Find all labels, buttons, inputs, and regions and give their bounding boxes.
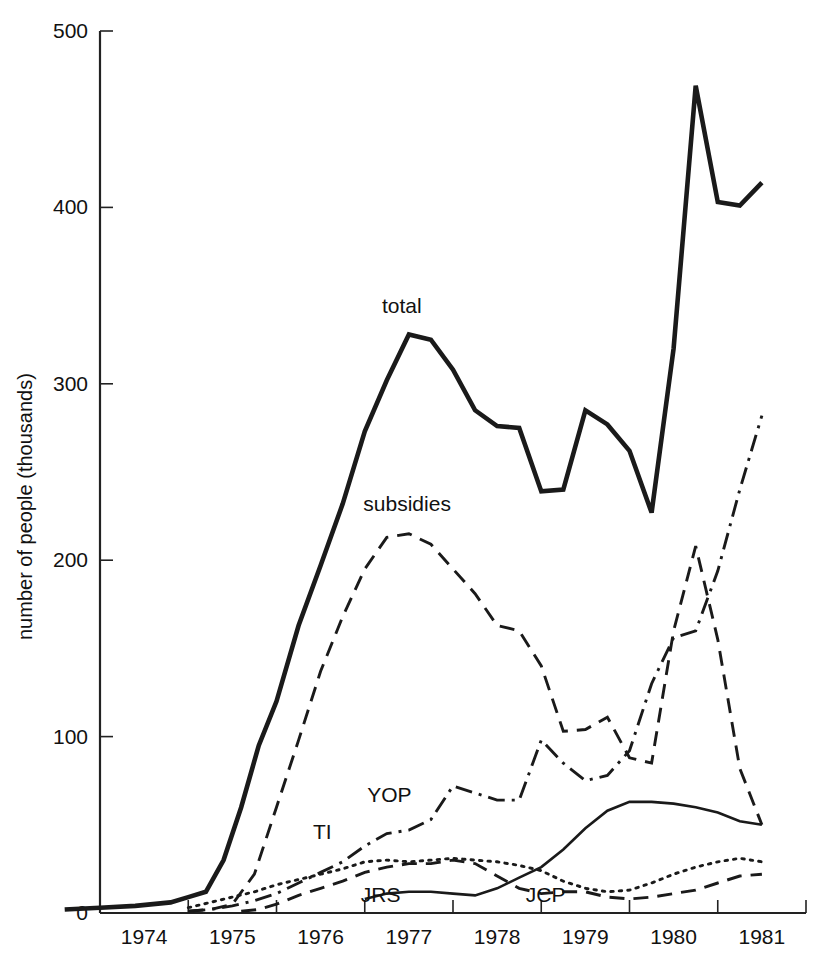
- line-chart: 0100200300400500 19741975197619771978197…: [0, 0, 835, 958]
- annotation-ti: TI: [313, 820, 332, 843]
- chart-axes: [100, 31, 806, 913]
- y-tick-label: 200: [53, 548, 88, 571]
- x-tick-label: 1978: [474, 925, 521, 948]
- annotation-yop: YOP: [367, 783, 411, 806]
- series-line-ti: [188, 858, 762, 907]
- y-tick-label: 300: [53, 372, 88, 395]
- series-line-subsidies: [188, 534, 762, 912]
- y-tick-label: 400: [53, 195, 88, 218]
- x-tick-label: 1977: [386, 925, 433, 948]
- y-tick-label: 0: [76, 901, 88, 924]
- annotation-jrs: JRS: [361, 883, 401, 906]
- x-tick-label: 1975: [209, 925, 256, 948]
- annotation-subsidies: subsidies: [363, 492, 451, 515]
- y-tick-label: 500: [53, 19, 88, 42]
- y-axis-title: number of people (thousands): [14, 373, 36, 640]
- x-tick-label: 1979: [562, 925, 609, 948]
- x-tick-label: 1980: [650, 925, 697, 948]
- x-tick-label: 1976: [297, 925, 344, 948]
- chart-container: 0100200300400500 19741975197619771978197…: [0, 0, 835, 958]
- annotation-jcp: JCP: [526, 883, 566, 906]
- y-axis-ticks: 0100200300400500: [53, 19, 113, 924]
- y-tick-label: 100: [53, 725, 88, 748]
- annotation-total: total: [382, 294, 422, 317]
- x-tick-label: 1974: [121, 925, 168, 948]
- series-line-yop: [188, 416, 762, 912]
- x-tick-label: 1981: [739, 925, 786, 948]
- x-axis-ticks: 19741975197619771978197919801981: [100, 900, 806, 948]
